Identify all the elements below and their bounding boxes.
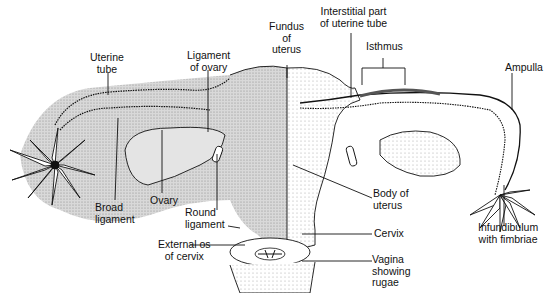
label-interstitial-part: Interstitial part of uterine tube <box>320 6 387 29</box>
label-infundibulum: Infundibulum with fimbriae <box>478 222 538 245</box>
label-isthmus: Isthmus <box>366 41 403 53</box>
uterus-anatomy-diagram: Uterine tube Ligament of ovary Fundus of… <box>0 0 550 293</box>
label-external-os: External os of cervix <box>158 239 211 262</box>
label-ovary: Ovary <box>150 195 178 207</box>
label-ampulla: Ampulla <box>505 62 543 74</box>
label-vagina: Vagina showing rugae <box>372 254 411 289</box>
label-body-of-uterus: Body of uterus <box>373 188 409 211</box>
label-broad-ligament: Broad ligament <box>95 202 135 225</box>
label-ligament-of-ovary: Ligament of ovary <box>187 50 230 73</box>
label-uterine-tube: Uterine tube <box>90 52 124 75</box>
label-round-ligament: Round ligament <box>185 207 225 230</box>
vagina-shape <box>230 262 315 293</box>
label-fundus-of-uterus: Fundus of uterus <box>269 21 304 56</box>
right-round-ligament <box>346 146 358 167</box>
right-ovary <box>380 131 460 176</box>
label-cervix: Cervix <box>374 228 404 240</box>
